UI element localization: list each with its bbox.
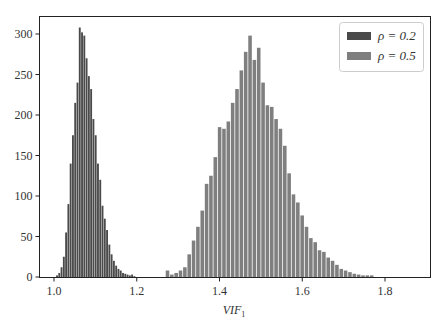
- legend: ρ = 0.2 ρ = 0.5: [340, 23, 424, 72]
- histogram-bar: [166, 271, 170, 277]
- histogram-bar: [102, 206, 104, 277]
- legend-label-rho-0-2: ρ = 0.2: [377, 28, 416, 43]
- histogram-bar: [274, 119, 278, 277]
- histogram-bar: [300, 215, 304, 277]
- histogram-bar: [344, 271, 348, 277]
- histogram-bar: [88, 76, 90, 277]
- x-tick-label: 1.8: [378, 284, 393, 298]
- histogram-bar: [339, 269, 343, 277]
- x-axis-label: VIF1: [223, 303, 246, 319]
- histogram-bar: [79, 28, 81, 277]
- histogram-bar: [253, 60, 257, 277]
- x-tick-label: 1.0: [47, 284, 62, 298]
- histogram-bar: [104, 219, 106, 277]
- histogram-bar: [244, 52, 248, 277]
- y-axis: 050100150200250300: [15, 27, 40, 284]
- y-tick-label: 300: [15, 27, 33, 41]
- histogram-bar: [74, 103, 76, 277]
- histogram-bar: [122, 273, 124, 277]
- x-tick-label: 1.6: [295, 284, 310, 298]
- histogram-bar: [61, 267, 63, 277]
- histogram-bar: [67, 204, 69, 277]
- histogram-bar: [174, 273, 178, 277]
- x-tick-label: 1.2: [129, 284, 144, 298]
- y-tick-label: 250: [15, 68, 33, 82]
- histogram-bar: [222, 129, 226, 277]
- histogram-bar: [120, 271, 122, 277]
- legend-swatch-rho-0-5: [347, 52, 371, 60]
- histogram-bar: [357, 275, 361, 277]
- histogram-bar: [283, 146, 287, 277]
- histogram-bar: [214, 157, 218, 277]
- histogram-bar: [127, 275, 129, 277]
- histogram-bar: [106, 230, 108, 277]
- legend-label-rho-0-5: ρ = 0.5: [377, 48, 416, 63]
- histogram-bar: [115, 266, 117, 277]
- histogram-bar: [56, 275, 58, 277]
- histogram-bar: [86, 58, 88, 277]
- histogram-bar: [196, 227, 200, 277]
- y-tick-label: 50: [21, 230, 33, 244]
- y-tick-label: 200: [15, 108, 33, 122]
- histogram-bar: [77, 83, 79, 277]
- histogram-bar: [200, 211, 204, 277]
- histogram-bar: [187, 254, 191, 277]
- histogram-bar: [366, 275, 370, 277]
- histogram-bar: [133, 276, 135, 277]
- histogram-bar: [63, 257, 65, 277]
- y-tick-label: 0: [27, 270, 33, 284]
- histogram-bar: [361, 275, 365, 277]
- histogram-bar: [318, 250, 322, 277]
- histogram-bar: [129, 275, 131, 277]
- histogram-bar: [90, 89, 92, 277]
- histogram-bar: [72, 135, 74, 277]
- histogram-chart: 050100150200250300 1.01.21.41.61.8 VIF1 …: [0, 0, 440, 327]
- histogram-bar: [296, 202, 300, 277]
- histogram-bar: [331, 261, 335, 277]
- histogram-bar: [240, 70, 244, 277]
- histogram-bar: [353, 274, 357, 277]
- y-tick-label: 100: [15, 189, 33, 203]
- histogram-bar: [270, 107, 274, 277]
- histogram-bar: [58, 273, 60, 277]
- histogram-bar: [326, 258, 330, 277]
- histogram-bar: [95, 135, 97, 277]
- histogram-bar: [261, 83, 265, 277]
- histogram-bar: [322, 252, 326, 277]
- histogram-bar: [209, 176, 213, 277]
- histogram-bar: [348, 272, 352, 277]
- histogram-bar: [257, 48, 261, 277]
- histogram-bar: [113, 261, 115, 277]
- histogram-bar: [335, 265, 339, 277]
- histogram-bar: [370, 275, 374, 277]
- y-tick-label: 150: [15, 149, 33, 163]
- histogram-bar: [309, 238, 313, 277]
- histogram-bar: [227, 121, 231, 277]
- histogram-bar: [97, 164, 99, 277]
- histogram-bar: [231, 103, 235, 277]
- histogram-bar: [70, 164, 72, 277]
- legend-swatch-rho-0-2: [347, 32, 371, 40]
- histogram-bar: [235, 89, 239, 277]
- histogram-bar: [266, 105, 270, 277]
- histogram-bar: [313, 242, 317, 277]
- histogram-bar: [205, 184, 209, 277]
- histogram-bar: [111, 254, 113, 277]
- histogram-bar: [305, 227, 309, 277]
- histogram-bar: [248, 36, 252, 277]
- histogram-bar: [65, 232, 67, 277]
- histogram-bar: [218, 127, 222, 277]
- histogram-bar: [279, 129, 283, 277]
- histogram-bar: [170, 275, 174, 277]
- histogram-bar: [131, 275, 133, 277]
- histogram-bar: [183, 267, 187, 277]
- histogram-bar: [192, 241, 196, 277]
- histogram-bar: [287, 173, 291, 277]
- histogram-bar: [179, 271, 183, 277]
- histogram-bar: [81, 32, 83, 277]
- histogram-bars: [56, 28, 373, 277]
- histogram-bar: [92, 119, 94, 277]
- histogram-bar: [292, 194, 296, 277]
- x-axis: 1.01.21.41.61.8: [47, 278, 393, 298]
- histogram-bar: [99, 180, 101, 277]
